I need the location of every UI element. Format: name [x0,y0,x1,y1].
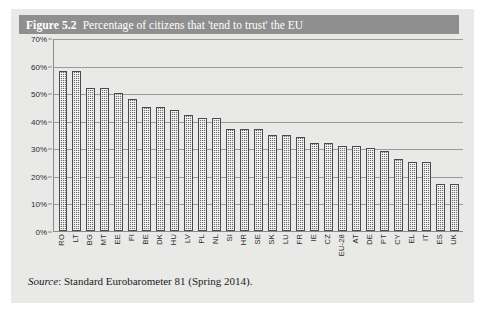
x-axis-label-slot: CZ [321,234,335,264]
bar-dk [156,107,165,231]
y-axis-tick-label: 10% [31,200,47,209]
x-axis-label-slot: DE [363,234,377,264]
x-axis-label-eu-28: EU-28 [338,234,346,256]
bar-slot [307,39,321,231]
x-axis-label-si: SI [226,234,234,242]
bar-slot [377,39,391,231]
x-axis-label-cz: CZ [324,234,332,244]
x-axis-label-slot: EU-28 [335,234,349,264]
x-axis-label-fi: FI [128,234,136,241]
bar-fi [128,99,137,231]
x-axis-label-slot: EE [111,234,125,264]
bar-hr [240,129,249,231]
bar-be [142,107,151,231]
bar-slot [70,39,84,231]
x-axis-label-sk: SK [268,234,276,244]
bar-slot [140,39,154,231]
y-axis-tick-label: 0% [35,228,47,237]
x-axis-label-slot: IT [419,234,433,264]
bar-sk [268,135,277,232]
x-axis-label-pt: PT [380,234,388,244]
bar-slot [293,39,307,231]
x-axis-label-dk: DK [156,234,164,245]
bar-slot [405,39,419,231]
bar-slot [126,39,140,231]
bar-slot [349,39,363,231]
bar-slot [419,39,433,231]
bar-slot [238,39,252,231]
bar-slot [433,39,447,231]
y-axis-tick-mark [48,39,52,40]
x-axis-label-el: EL [408,234,416,244]
y-axis-tick-mark [48,149,52,150]
figure-title-bar: Figure 5.2 Percentage of citizens that '… [19,15,459,34]
x-axis-label-slot: LU [279,234,293,264]
bar-de [366,148,375,231]
x-axis-label-slot: BG [83,234,97,264]
x-axis-label-slot: SK [265,234,279,264]
y-axis: 70%60%50%40%30%20%10%0% [19,39,52,232]
x-axis-label-cy: CY [394,234,402,245]
source-text: : Standard Eurobarometer 81 (Spring 2014… [58,275,252,287]
x-axis-label-lu: LU [282,234,290,244]
y-axis-tick-mark [48,204,52,205]
bar-slot [98,39,112,231]
bar-ro [59,71,68,231]
x-axis-label-mt: MT [100,234,108,245]
x-axis-label-bg: BG [86,234,94,245]
x-axis-label-uk: UK [450,234,458,245]
x-axis-label-slot: UK [447,234,461,264]
x-axis-label-slot: FR [293,234,307,264]
figure-caption: Percentage of citizens that 'tend to tru… [83,19,304,31]
bar-slot [224,39,238,231]
bar-cy [394,159,403,231]
x-axis-label-hr: HR [240,234,248,245]
x-axis-label-se: SE [254,234,262,244]
x-axis-label-slot: MT [97,234,111,264]
x-axis-label-ro: RO [58,234,66,246]
bar-nl [212,118,221,231]
x-axis-label-es: ES [436,234,444,244]
bar-slot [84,39,98,231]
bar-slot [182,39,196,231]
bar-slot [363,39,377,231]
bar-series [54,39,463,231]
bar-slot [196,39,210,231]
x-axis-label-slot: HU [167,234,181,264]
x-axis-labels: ROLTBGMTEEFIBEDKHULVPLNLSIHRSESKLUFRIECZ… [53,234,463,264]
bar-ie [310,143,319,231]
bar-pt [380,151,389,231]
bar-slot [252,39,266,231]
bar-slot [321,39,335,231]
x-axis-label-de: DE [366,234,374,245]
x-axis-label-nl: NL [212,234,220,244]
x-axis-label-slot: CY [391,234,405,264]
x-axis-label-lv: LV [184,234,192,243]
bar-lu [282,135,291,232]
x-axis-label-fr: FR [296,234,304,244]
x-axis-label-slot: PL [195,234,209,264]
bar-es [436,184,445,231]
y-axis-tick-label: 20% [31,172,47,181]
x-axis-label-hu: HU [170,234,178,245]
bar-slot [391,39,405,231]
x-axis-label-ee: EE [114,234,122,244]
bar-slot [112,39,126,231]
x-axis-label-slot: DK [153,234,167,264]
y-axis-tick-label: 70% [31,35,47,44]
bar-it [422,162,431,231]
bar-ee [114,93,123,231]
y-axis-tick-label: 60% [31,62,47,71]
chart: 70%60%50%40%30%20%10%0% ROLTBGMTEEFIBEDK… [19,39,466,264]
x-axis-label-at: AT [352,234,360,243]
x-axis-label-slot: HR [237,234,251,264]
x-axis-label-slot: ES [433,234,447,264]
bar-se [254,129,263,231]
x-axis-label-lt: LT [72,234,80,243]
x-axis-label-it: IT [422,234,430,241]
bar-uk [450,184,459,231]
bar-slot [280,39,294,231]
plot-area [53,39,463,232]
x-axis-label-slot: RO [55,234,69,264]
bar-eu-28 [338,146,347,231]
